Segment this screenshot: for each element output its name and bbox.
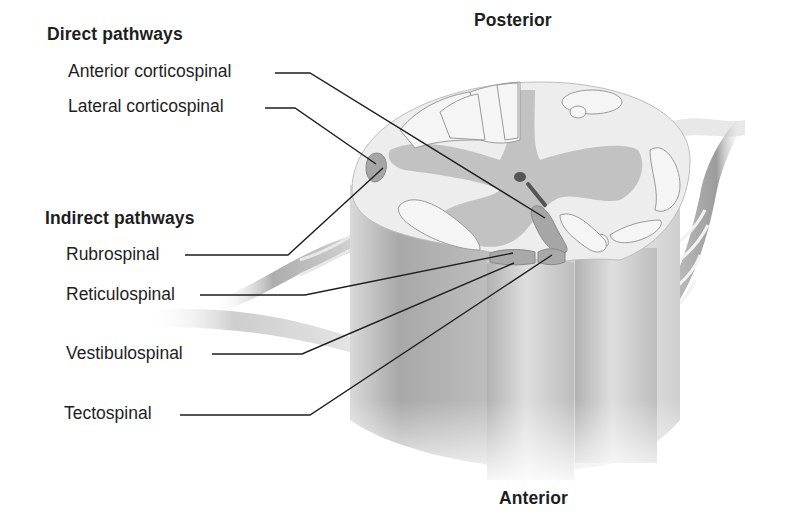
central-canal bbox=[514, 172, 526, 182]
direct-pathways-heading: Direct pathways bbox=[47, 24, 183, 45]
indirect-pathways-heading: Indirect pathways bbox=[45, 208, 195, 229]
rubrospinal-label: Rubrospinal bbox=[66, 244, 159, 265]
posterior-label: Posterior bbox=[474, 10, 552, 31]
reticulospinal-label: Reticulospinal bbox=[66, 284, 175, 305]
anterior-label: Anterior bbox=[499, 488, 568, 509]
anterior-corticospinal-label: Anterior corticospinal bbox=[68, 61, 231, 82]
tectospinal-label: Tectospinal bbox=[64, 403, 152, 424]
reticulospinal-tract bbox=[490, 250, 535, 265]
vestibulospinal-label: Vestibulospinal bbox=[66, 343, 183, 364]
leader-lateral-corticospinal bbox=[265, 108, 376, 164]
lateral-corticospinal-label: Lateral corticospinal bbox=[68, 96, 224, 117]
